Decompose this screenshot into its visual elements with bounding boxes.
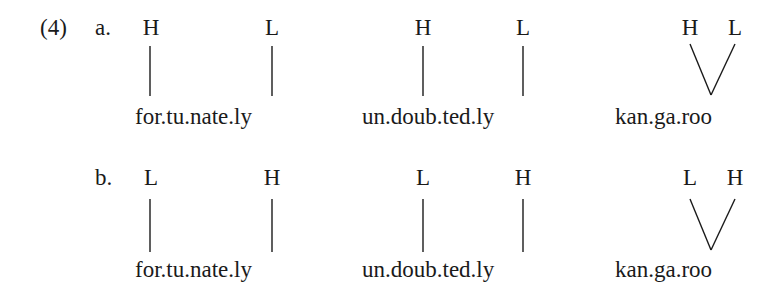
association-line bbox=[690, 44, 711, 95]
association-line bbox=[690, 199, 711, 250]
association-line bbox=[711, 199, 735, 250]
association-line bbox=[711, 44, 735, 95]
association-lines bbox=[0, 0, 783, 307]
